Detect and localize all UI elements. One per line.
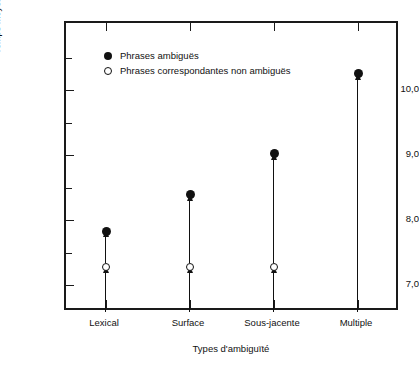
y-tick-major-7 xyxy=(66,285,74,286)
arrow-shaft-multiple xyxy=(357,80,358,312)
data-point-sous-jacente-ambigue xyxy=(270,149,279,158)
y-tick-minor-7-5 xyxy=(66,253,72,254)
data-point-multiple-ambigue xyxy=(354,69,363,78)
x-tick-top-sous-jacente xyxy=(274,23,275,31)
data-point-surface-non-ambigue xyxy=(186,263,194,271)
arrow-shaft-surface-upper xyxy=(189,201,190,263)
y-tick-minor-10-5 xyxy=(66,58,72,59)
arrow-shaft-sous-jacente-upper xyxy=(273,160,274,263)
data-point-lexical-non-ambigue xyxy=(102,263,110,271)
legend-label-non-ambigues: Phrases correspondantes non ambiguës xyxy=(116,65,291,76)
y-tick-major-10 xyxy=(66,90,74,91)
open-circle-icon xyxy=(100,67,116,75)
data-point-lexical-ambigue xyxy=(102,227,111,236)
legend-item-ambigues: Phrases ambiguës xyxy=(100,48,291,63)
chart-figure: Temps moyen de complètement (sec) 10,0 9… xyxy=(0,0,419,371)
x-tick-top-lexical xyxy=(106,23,107,31)
filled-circle-icon xyxy=(100,52,116,60)
y-tick-minor-9-5 xyxy=(66,123,72,124)
arrow-shaft-surface-lower xyxy=(189,273,190,312)
x-axis-title: Types d'ambiguïté xyxy=(64,343,398,354)
plot-area: Phrases ambiguës Phrases correspondantes… xyxy=(64,21,398,310)
arrow-shaft-sous-jacente-lower xyxy=(273,273,274,312)
data-point-sous-jacente-non-ambigue xyxy=(270,263,278,271)
y-tick-minor-8-5 xyxy=(66,188,72,189)
chart-legend: Phrases ambiguës Phrases correspondantes… xyxy=(100,48,291,78)
legend-item-non-ambigues: Phrases correspondantes non ambiguës xyxy=(100,63,291,78)
x-tick-label-multiple: Multiple xyxy=(301,317,411,328)
legend-label-ambigues: Phrases ambiguës xyxy=(116,50,199,61)
y-tick-major-8 xyxy=(66,220,74,221)
y-tick-major-9 xyxy=(66,155,74,156)
arrow-shaft-lexical-lower xyxy=(105,273,106,312)
y-axis-title: Temps moyen de complètement (sec) xyxy=(0,0,2,92)
x-tick-top-surface xyxy=(190,23,191,31)
data-point-surface-ambigue xyxy=(186,190,195,199)
x-tick-top-multiple xyxy=(358,23,359,31)
arrow-shaft-lexical-upper xyxy=(105,237,106,263)
